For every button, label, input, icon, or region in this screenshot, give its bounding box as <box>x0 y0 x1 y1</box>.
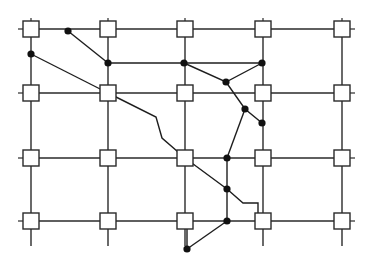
node-box <box>334 85 350 101</box>
routes <box>31 31 262 249</box>
grid-node <box>177 85 193 101</box>
node-box <box>255 21 271 37</box>
node-box <box>177 85 193 101</box>
node-box <box>100 21 116 37</box>
via-dot <box>64 27 71 34</box>
node-box <box>334 213 350 229</box>
node-box <box>334 21 350 37</box>
grid-node <box>255 85 271 101</box>
grid-node <box>100 18 116 37</box>
grid-node <box>100 85 116 101</box>
via-dot <box>180 59 187 66</box>
via-dot <box>222 78 229 85</box>
via-dot <box>258 119 265 126</box>
grid-node <box>334 85 355 101</box>
grid-node <box>100 150 116 166</box>
grid-node <box>18 150 39 166</box>
node-box <box>23 150 39 166</box>
grid-node <box>177 18 193 37</box>
node-box <box>100 150 116 166</box>
via-dot <box>104 59 111 66</box>
grid-node <box>18 213 39 229</box>
grid-node <box>334 150 355 166</box>
grid-node <box>334 18 355 37</box>
node-box <box>334 150 350 166</box>
node-box <box>177 150 193 166</box>
node-box <box>23 21 39 37</box>
grid-node <box>177 150 193 166</box>
grid-node <box>100 213 116 229</box>
route-wire <box>227 109 245 158</box>
node-box <box>100 213 116 229</box>
via-dot <box>241 105 248 112</box>
grid-node <box>255 18 271 37</box>
grid-node <box>18 85 39 101</box>
node-box <box>255 213 271 229</box>
via-dot <box>223 185 230 192</box>
routing-diagram <box>0 0 375 263</box>
via-dot <box>223 217 230 224</box>
route-wire <box>31 54 108 93</box>
grid-nodes <box>18 18 355 229</box>
route-wire <box>108 93 185 158</box>
node-box <box>23 213 39 229</box>
grid-node <box>255 213 271 229</box>
node-box <box>177 213 193 229</box>
node-box <box>255 150 271 166</box>
vias <box>27 27 265 252</box>
via-dot <box>27 50 34 57</box>
via-dot <box>223 154 230 161</box>
grid-node <box>177 213 193 229</box>
via-dot <box>183 245 190 252</box>
node-box <box>255 85 271 101</box>
route-wire <box>184 63 262 82</box>
grid-node <box>255 150 271 166</box>
grid-node <box>18 18 39 37</box>
node-box <box>177 21 193 37</box>
route-wire <box>185 158 258 213</box>
grid-node <box>334 213 355 229</box>
node-box <box>23 85 39 101</box>
via-dot <box>258 59 265 66</box>
node-box <box>100 85 116 101</box>
